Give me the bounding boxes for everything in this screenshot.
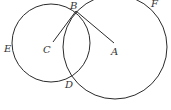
segment-cb [53,11,76,42]
label-f: F [150,0,159,9]
circle-centered-c [12,4,90,82]
label-d: D [64,79,73,90]
label-a: A [110,46,118,57]
label-e: E [3,43,12,54]
segment-ba [76,11,114,43]
label-b: B [69,0,77,11]
label-c: C [43,44,51,55]
geometry-diagram: B F E C A D [0,0,171,110]
